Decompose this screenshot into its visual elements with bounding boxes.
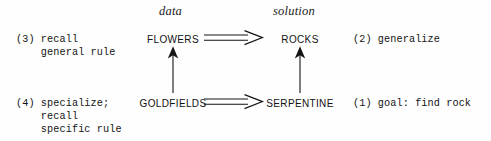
arrow-up-right-icon [289,44,311,94]
column-header-data: data [159,4,182,19]
annotation-step-1: (1) goal: find rock [353,97,471,110]
arrow-up-left-icon [162,44,184,94]
node-serpentine: SERPENTINE [266,98,333,109]
annotation-step-2: (2) generalize [353,33,440,46]
annotation-step-3: (3) recall general rule [16,33,115,59]
analogy-diagram: data solution (3) recall general rule (4… [0,0,491,141]
column-header-solution: solution [273,4,315,19]
node-goldfields: GOLDFIELDS [140,98,207,109]
annotation-step-4: (4) specialize; recall specific rule [16,97,122,136]
double-arrow-right-bottom-icon [203,94,265,110]
double-arrow-right-top-icon [203,30,265,46]
